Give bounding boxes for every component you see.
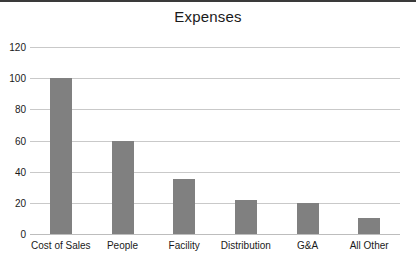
chart-container: Expenses 020406080100120 Cost of SalesPe… [0, 0, 416, 257]
y-axis-tick-label: 80 [0, 104, 26, 115]
gridline [30, 78, 400, 79]
x-axis-tick-label: People [107, 240, 138, 251]
y-axis-tick-label: 120 [0, 42, 26, 53]
x-axis-tick-label: Facility [169, 240, 200, 251]
x-axis-tick-label: Distribution [221, 240, 271, 251]
bar [173, 179, 195, 234]
gridline [30, 172, 400, 173]
bar [50, 78, 72, 234]
bar [112, 141, 134, 235]
y-axis-tick-label: 60 [0, 135, 26, 146]
x-axis-tick-label: All Other [350, 240, 389, 251]
y-axis-tick-label: 100 [0, 73, 26, 84]
bar [297, 203, 319, 234]
bar [235, 200, 257, 234]
bar [358, 218, 380, 234]
plot-area: 020406080100120 [30, 47, 400, 234]
y-axis-tick-label: 40 [0, 166, 26, 177]
gridline [30, 47, 400, 48]
gridline [30, 109, 400, 110]
gridline [30, 203, 400, 204]
y-axis-tick-label: 20 [0, 197, 26, 208]
gridline [30, 234, 400, 235]
y-axis-tick-label: 0 [0, 229, 26, 240]
x-axis-tick-label: G&A [297, 240, 318, 251]
gridline [30, 141, 400, 142]
x-axis-tick-label: Cost of Sales [31, 240, 90, 251]
chart-title: Expenses [0, 8, 416, 25]
